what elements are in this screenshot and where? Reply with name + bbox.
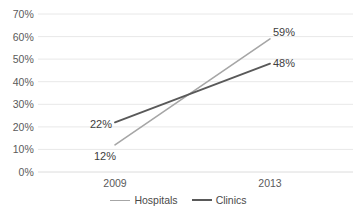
series-line-hospitals xyxy=(115,39,270,145)
y-tick-50: 50% xyxy=(0,53,34,65)
legend-item-hospitals[interactable]: Hospitals xyxy=(110,194,177,206)
data-label-hospitals-2013: 59% xyxy=(273,26,295,38)
chart-canvas xyxy=(0,0,357,210)
y-tick-0: 0% xyxy=(0,166,34,178)
line-chart: 70% 60% 50% 40% 30% 20% 10% 0% 2009 2013… xyxy=(0,0,357,210)
legend-item-clinics[interactable]: Clinics xyxy=(192,194,247,206)
y-tick-70: 70% xyxy=(0,8,34,20)
y-tick-30: 30% xyxy=(0,98,34,110)
data-label-clinics-2013: 48% xyxy=(273,57,295,69)
chart-legend: Hospitals Clinics xyxy=(0,192,357,208)
data-label-clinics-2009: 22% xyxy=(90,118,112,130)
legend-swatch-hospitals xyxy=(110,200,130,201)
series-line-clinics xyxy=(115,64,270,123)
legend-label-clinics: Clinics xyxy=(216,194,247,206)
legend-swatch-clinics xyxy=(192,199,212,201)
series-lines xyxy=(115,39,270,145)
gridlines xyxy=(38,14,353,172)
x-tick-2009: 2009 xyxy=(91,177,139,189)
legend-label-hospitals: Hospitals xyxy=(134,194,177,206)
y-tick-10: 10% xyxy=(0,143,34,155)
y-tick-20: 20% xyxy=(0,121,34,133)
x-tick-2013: 2013 xyxy=(246,177,294,189)
y-tick-40: 40% xyxy=(0,76,34,88)
y-tick-60: 60% xyxy=(0,31,34,43)
data-label-hospitals-2009: 12% xyxy=(94,150,116,162)
